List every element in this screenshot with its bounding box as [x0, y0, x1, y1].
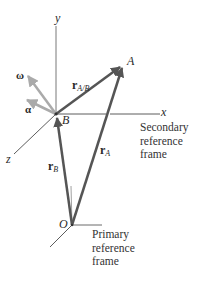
- secondary-x-axis-label: x: [161, 106, 166, 118]
- secondary-frame-caption: Secondary reference frame: [140, 121, 189, 162]
- r-B-label: rB: [48, 160, 58, 174]
- r-B-subscript: B: [53, 165, 58, 174]
- alpha-label: α: [25, 104, 31, 115]
- secondary-caption-line-3: frame: [140, 148, 189, 162]
- primary-caption-line-2: reference: [92, 242, 135, 256]
- point-O-dot: [71, 224, 73, 226]
- r-B-vector: [57, 118, 72, 225]
- r-A-subscript: A: [105, 149, 110, 158]
- secondary-caption-line-2: reference: [140, 135, 189, 149]
- secondary-z-axis: [14, 114, 56, 154]
- r-A-B-label: rA/B: [72, 79, 89, 93]
- omega-label: ω: [16, 70, 24, 81]
- primary-caption-line-3: frame: [92, 255, 135, 269]
- point-O-label: O: [59, 218, 68, 230]
- point-B-label: B: [62, 114, 69, 126]
- point-A-label: A: [127, 55, 134, 67]
- secondary-y-axis-label: y: [55, 12, 60, 24]
- primary-frame-caption: Primary reference frame: [92, 228, 135, 269]
- r-A-label: rA: [100, 144, 110, 158]
- secondary-caption-line-1: Secondary: [140, 121, 189, 135]
- point-B-dot: [54, 112, 57, 115]
- r-A-B-subscript: A/B: [77, 84, 89, 93]
- secondary-z-axis-label: z: [6, 153, 11, 165]
- primary-caption-line-1: Primary: [92, 228, 135, 242]
